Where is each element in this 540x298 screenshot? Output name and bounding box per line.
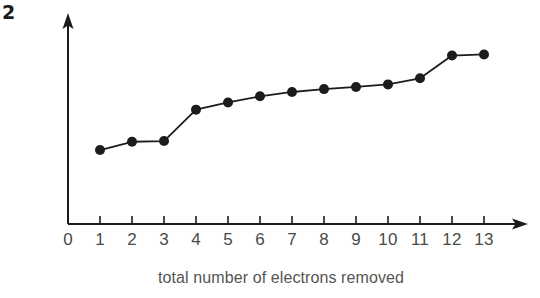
chart-plot-area xyxy=(0,0,540,298)
data-point-6 xyxy=(255,91,265,101)
data-point-5 xyxy=(223,97,233,107)
y-axis-group xyxy=(63,13,74,224)
data-point-8 xyxy=(319,84,329,94)
x-axis-group xyxy=(68,219,528,230)
data-point-12 xyxy=(447,51,457,61)
data-point-1 xyxy=(95,145,105,155)
x-axis-title: total number of electrons removed xyxy=(0,267,540,289)
data-point-4 xyxy=(191,105,201,115)
figure-root: 2 xyxy=(0,0,540,298)
data-point-2 xyxy=(127,137,137,147)
data-point-10 xyxy=(383,79,393,89)
data-point-3 xyxy=(159,136,169,146)
data-point-7 xyxy=(287,87,297,97)
data-point-11 xyxy=(415,73,425,83)
data-point-9 xyxy=(351,82,361,92)
x-tick-label-13: 13 xyxy=(464,229,504,251)
x-axis-ticks xyxy=(68,216,484,224)
series-line xyxy=(100,54,484,150)
data-point-13 xyxy=(479,49,489,59)
series-markers xyxy=(95,49,489,155)
data-series-group xyxy=(95,49,489,155)
